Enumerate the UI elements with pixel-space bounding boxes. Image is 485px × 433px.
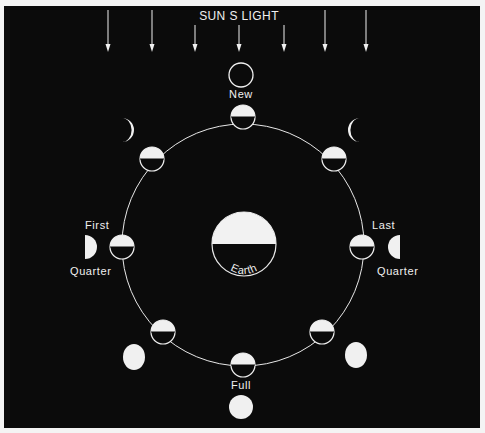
orbit-moon-new: [231, 105, 255, 129]
label-first-quarter: Quarter: [70, 265, 112, 277]
appearance-waning-crescent-icon: [348, 118, 360, 142]
earth-lit-half: [212, 212, 276, 244]
appearance-waning-gibbous-icon: [345, 342, 367, 368]
label-last: Last: [372, 219, 395, 231]
label-last-quarter: Quarter: [377, 265, 419, 277]
orbit-moon-full: [231, 353, 255, 377]
sunlight-arrow: [323, 10, 328, 52]
orbit-moon-waxing-gibbous: [151, 320, 175, 344]
orbit-moon-last-quarter: [350, 235, 374, 259]
orbit-moon-first-quarter: [110, 235, 134, 259]
label-first: First: [85, 219, 109, 231]
orbit-moon-waxing-crescent: [140, 147, 164, 171]
appearance-last-quarter-icon: [388, 235, 400, 259]
label-full: Full: [231, 379, 251, 391]
sunlight-arrow: [106, 10, 111, 52]
appearance-full-icon: [229, 395, 253, 419]
appearance-waxing-gibbous-icon: [123, 344, 145, 370]
label-new: New: [229, 88, 253, 100]
sunlight-title: SUN S LIGHT: [199, 9, 279, 23]
appearance-waxing-crescent-icon: [122, 118, 134, 142]
sunlight-arrow: [150, 10, 155, 52]
appearance-new-icon: [229, 63, 253, 87]
appearance-first-quarter-icon: [85, 235, 97, 259]
orbit-moon-waning-crescent: [322, 147, 346, 171]
orbit-moon-waning-gibbous: [310, 320, 334, 344]
sunlight-arrow: [364, 10, 369, 52]
earth: Earth: [212, 212, 276, 276]
moon-phases-diagram: SUN S LIGHT Earth New Full First Quarter…: [0, 0, 485, 433]
